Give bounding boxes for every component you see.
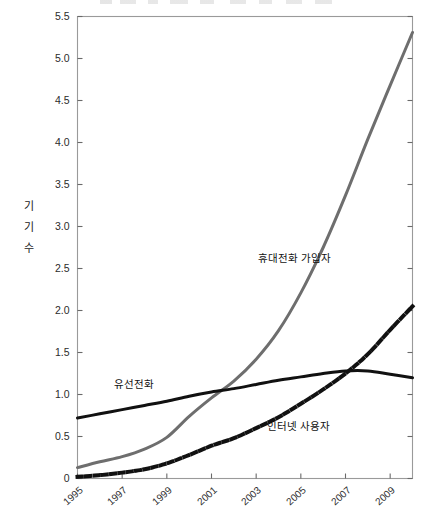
y-tick-label: 2.5	[36, 263, 70, 274]
y-tick-label: 5.5	[36, 11, 70, 22]
y-tick-label: 3.0	[36, 221, 70, 232]
y-tick-label: 1.0	[36, 389, 70, 400]
y-tick-label: 0.5	[36, 431, 70, 442]
series-line-3	[78, 306, 413, 477]
y-tick-label: 4.5	[36, 95, 70, 106]
series-annotation-3: 인터넷 사용자	[267, 420, 330, 432]
data-series-group	[78, 32, 413, 476]
series-line-1	[78, 32, 413, 467]
y-tick-label: 1.5	[36, 347, 70, 358]
y-axis-title-char-1: 기	[18, 196, 40, 217]
y-tick-label: 0	[36, 473, 70, 484]
y-tick-label: 5.0	[36, 53, 70, 64]
y-tick-label: 4.0	[36, 137, 70, 148]
y-tick-label: 3.5	[36, 179, 70, 190]
chart-figure: 기 기 수 00.51.01.52.02.53.03.54.04.55.05.5…	[0, 0, 432, 517]
series-annotation-1: 휴대전화 가입자	[258, 252, 331, 264]
cropped-caption-artifact	[96, 0, 346, 4]
series-annotation-2: 유선전화	[114, 378, 154, 390]
y-axis-title-char-3: 수	[18, 238, 40, 259]
y-tick-label: 2.0	[36, 305, 70, 316]
